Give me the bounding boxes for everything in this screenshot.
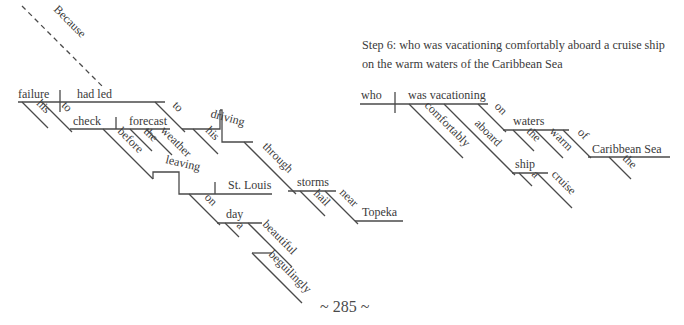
word-to-infinitive: to <box>59 98 76 115</box>
word-ship: ship <box>515 157 535 171</box>
word-because: Because <box>51 2 89 40</box>
word-day: day <box>226 207 243 221</box>
word-waters: waters <box>513 114 545 128</box>
sentence-diagrams: Because failure had led his to check for… <box>0 0 684 325</box>
word-st-louis: St. Louis <box>228 178 272 192</box>
word-through: through <box>260 139 296 175</box>
word-storms: storms <box>297 175 329 189</box>
word-had-led: had led <box>77 87 112 101</box>
page-number: ~ 285 ~ <box>320 298 369 316</box>
word-on-2: on <box>492 99 510 117</box>
word-topeka: Topeka <box>362 205 398 219</box>
word-aboard: aboard <box>472 116 505 149</box>
word-of: of <box>575 125 592 142</box>
word-cruise: cruise <box>549 167 579 197</box>
word-to-prep: to <box>170 98 187 115</box>
word-leaving: leaving <box>164 152 202 174</box>
word-who: who <box>361 88 382 102</box>
word-was-vacationing: was vacationing <box>408 88 486 102</box>
word-check: check <box>73 114 101 128</box>
right-diagram: who was vacationing comfortably aboard s… <box>360 88 670 208</box>
word-on-1: on <box>202 190 220 208</box>
left-diagram: Because failure had led his to check for… <box>18 2 403 303</box>
